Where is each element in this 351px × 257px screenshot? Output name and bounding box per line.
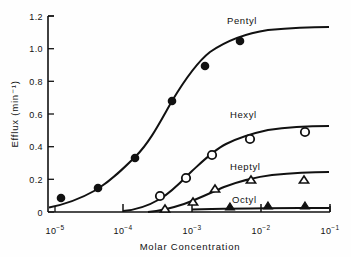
heptyl-point-1	[160, 205, 169, 212]
chart-canvas: 1.2 1.0 0.8 0.6 0.4 0.2 0 10−5 10−4 10−3…	[0, 0, 351, 257]
x-tick-label-1e-4: 10−4	[113, 224, 132, 236]
x-tick-label-1e-5: 10−5	[45, 224, 64, 236]
svg-text:10−4: 10−4	[113, 224, 132, 236]
pentyl-point-6	[236, 37, 245, 46]
hexyl-point-1	[156, 192, 164, 200]
y-axis-title: Efflux (min⁻¹)	[9, 80, 20, 147]
svg-text:10−2: 10−2	[251, 224, 270, 236]
octyl-series-label: Octyl	[232, 194, 257, 205]
y-tick-labels: 1.2 1.0 0.8 0.6 0.4 0.2 0	[29, 12, 43, 218]
y-tick-marks	[48, 16, 54, 212]
hexyl-point-3	[208, 151, 216, 159]
pentyl-point-4	[168, 97, 177, 106]
x-tick-label-1e-1: 10−1	[320, 224, 339, 236]
pentyl-series-label: Pentyl	[227, 15, 257, 26]
hexyl-point-2	[182, 174, 190, 182]
hexyl-point-5	[301, 128, 309, 136]
hexyl-series-label: Hexyl	[230, 109, 257, 120]
pentyl-point-2	[94, 184, 103, 193]
heptyl-point-5	[299, 176, 308, 183]
heptyl-series-label: Heptyl	[230, 161, 261, 172]
y-tick-label-1_0: 1.0	[29, 44, 43, 54]
heptyl-point-3	[210, 185, 219, 192]
hexyl-point-4	[246, 135, 254, 143]
y-tick-label-0_4: 0.4	[29, 142, 43, 152]
series-hexyl: Hexyl	[123, 109, 329, 211]
axis-lines	[48, 16, 330, 212]
y-tick-label-0_2: 0.2	[29, 175, 43, 185]
x-tick-label-1e-3: 10−3	[182, 224, 201, 236]
x-tick-label-1e-2: 10−2	[251, 224, 270, 236]
efflux-dose-response-figure: 1.2 1.0 0.8 0.6 0.4 0.2 0 10−5 10−4 10−3…	[0, 0, 351, 257]
y-tick-label-0: 0	[38, 208, 43, 218]
svg-text:10−5: 10−5	[45, 224, 64, 236]
pentyl-point-3	[131, 154, 140, 163]
octyl-point-2	[264, 202, 273, 209]
x-axis-title: Molar Concentration	[140, 241, 241, 252]
x-tick-labels: 10−5 10−4 10−3 10−2 10−1	[45, 224, 339, 236]
hexyl-curve	[123, 126, 329, 211]
series-octyl: Octyl	[192, 194, 329, 210]
svg-text:10−1: 10−1	[320, 224, 339, 236]
pentyl-point-5	[201, 62, 210, 71]
y-tick-label-0_8: 0.8	[29, 77, 43, 87]
pentyl-point-1	[57, 194, 66, 203]
y-tick-label-1_2: 1.2	[29, 12, 43, 22]
octyl-point-3	[301, 202, 310, 209]
svg-text:10−3: 10−3	[182, 224, 201, 236]
y-tick-label-0_6: 0.6	[29, 110, 43, 120]
